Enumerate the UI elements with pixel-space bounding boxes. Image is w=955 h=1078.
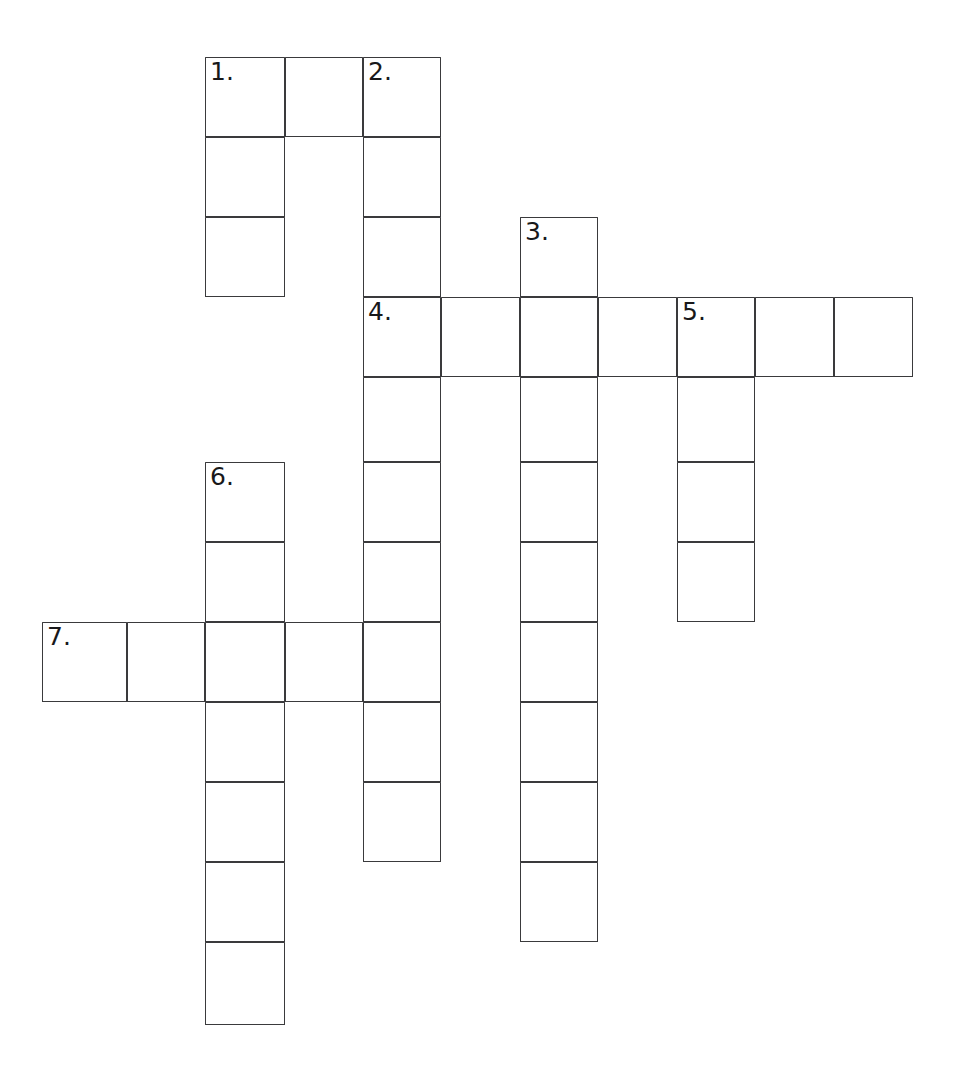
crossword-grid: 1.2.3.4.5.6.7. xyxy=(0,0,955,1078)
crossword-cell[interactable] xyxy=(520,862,598,942)
crossword-cell[interactable] xyxy=(520,782,598,862)
crossword-cell[interactable] xyxy=(363,137,441,217)
crossword-cell[interactable] xyxy=(363,377,441,462)
clue-number: 3. xyxy=(525,218,549,245)
crossword-cell[interactable] xyxy=(520,542,598,622)
crossword-cell[interactable] xyxy=(520,377,598,462)
crossword-cell[interactable] xyxy=(363,702,441,782)
clue-number: 1. xyxy=(210,58,234,85)
crossword-cell[interactable]: 7. xyxy=(42,622,127,702)
crossword-cell[interactable] xyxy=(363,622,441,702)
crossword-puzzle: 1.2.3.4.5.6.7. xyxy=(0,0,955,1078)
crossword-cell[interactable] xyxy=(755,297,834,377)
crossword-cell[interactable] xyxy=(363,782,441,862)
crossword-cell[interactable] xyxy=(363,462,441,542)
clue-number: 6. xyxy=(210,463,234,490)
crossword-cell[interactable] xyxy=(205,782,285,862)
crossword-cell[interactable] xyxy=(520,622,598,702)
crossword-cell[interactable] xyxy=(441,297,520,377)
crossword-cell[interactable] xyxy=(677,462,755,542)
crossword-cell[interactable] xyxy=(205,942,285,1025)
crossword-cell[interactable]: 3. xyxy=(520,217,598,297)
crossword-cell[interactable]: 1. xyxy=(205,57,285,137)
crossword-cell[interactable] xyxy=(285,622,363,702)
crossword-cell[interactable] xyxy=(205,542,285,622)
crossword-cell[interactable] xyxy=(834,297,913,377)
crossword-cell[interactable]: 5. xyxy=(677,297,755,377)
crossword-cell[interactable]: 2. xyxy=(363,57,441,137)
crossword-cell[interactable] xyxy=(520,297,598,377)
clue-number: 2. xyxy=(368,58,392,85)
crossword-cell[interactable]: 4. xyxy=(363,297,441,377)
crossword-cell[interactable] xyxy=(205,217,285,297)
crossword-cell[interactable]: 6. xyxy=(205,462,285,542)
crossword-cell[interactable] xyxy=(205,137,285,217)
crossword-cell[interactable] xyxy=(205,702,285,782)
crossword-cell[interactable] xyxy=(677,377,755,462)
crossword-cell[interactable] xyxy=(205,862,285,942)
clue-number: 5. xyxy=(682,298,706,325)
crossword-cell[interactable] xyxy=(205,622,285,702)
crossword-cell[interactable] xyxy=(520,702,598,782)
crossword-cell[interactable] xyxy=(677,542,755,622)
crossword-cell[interactable] xyxy=(520,462,598,542)
crossword-cell[interactable] xyxy=(285,57,363,137)
crossword-cell[interactable] xyxy=(363,217,441,297)
crossword-cell[interactable] xyxy=(598,297,677,377)
clue-number: 4. xyxy=(368,298,392,325)
crossword-cell[interactable] xyxy=(127,622,205,702)
clue-number: 7. xyxy=(47,623,71,650)
crossword-cell[interactable] xyxy=(363,542,441,622)
